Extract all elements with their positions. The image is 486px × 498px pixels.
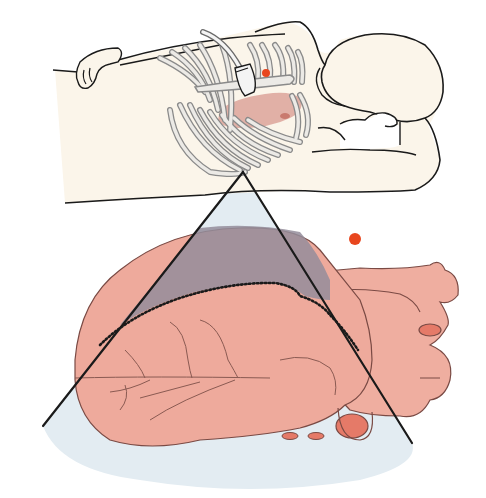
vessel-opening [308, 433, 324, 440]
ultrasound-illustration [0, 0, 486, 498]
heart-large [75, 226, 458, 446]
probe-orientation-marker [262, 69, 270, 77]
vessel-opening [419, 324, 441, 336]
vessel-opening [282, 433, 298, 440]
image-orientation-marker [349, 233, 361, 245]
